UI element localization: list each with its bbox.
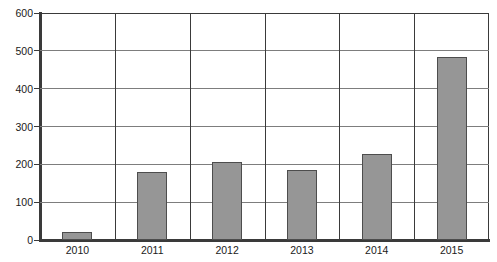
y-axis-label-0: 0	[1, 235, 33, 246]
x-axis-label-2011: 2011	[115, 245, 190, 256]
category-separator-3	[265, 13, 266, 240]
y-axis-label-500: 500	[1, 46, 33, 57]
bar-2011	[137, 172, 167, 240]
category-separator-1	[115, 13, 116, 240]
bar-2013	[287, 170, 317, 240]
y-axis-label-300: 300	[1, 121, 33, 132]
x-axis-label-2010: 2010	[40, 245, 115, 256]
bar-2015	[437, 57, 467, 240]
y-tick-500	[34, 50, 39, 51]
bar-2012	[212, 162, 242, 240]
bar-2014	[362, 154, 392, 240]
y-axis-tick-labels: 0100200300400500600	[0, 0, 33, 262]
y-tick-300	[34, 126, 39, 127]
y-tick-100	[34, 202, 39, 203]
category-separator-4	[339, 13, 340, 240]
y-axis-label-400: 400	[1, 83, 33, 94]
y-axis-label-200: 200	[1, 159, 33, 170]
bar-2010	[62, 232, 92, 240]
bar-chart: 0100200300400500600 20102011201220132014…	[0, 0, 497, 262]
y-tick-200	[34, 164, 39, 165]
y-axis-label-100: 100	[1, 197, 33, 208]
category-separator-5	[414, 13, 415, 240]
x-axis-label-2014: 2014	[339, 245, 414, 256]
y-tick-400	[34, 88, 39, 89]
y-tick-600	[34, 13, 39, 14]
y-axis-label-600: 600	[1, 8, 33, 19]
x-axis-label-2013: 2013	[265, 245, 340, 256]
x-axis-label-2012: 2012	[190, 245, 265, 256]
x-axis-label-2015: 2015	[414, 245, 489, 256]
category-separator-2	[190, 13, 191, 240]
y-tick-0	[34, 240, 39, 241]
